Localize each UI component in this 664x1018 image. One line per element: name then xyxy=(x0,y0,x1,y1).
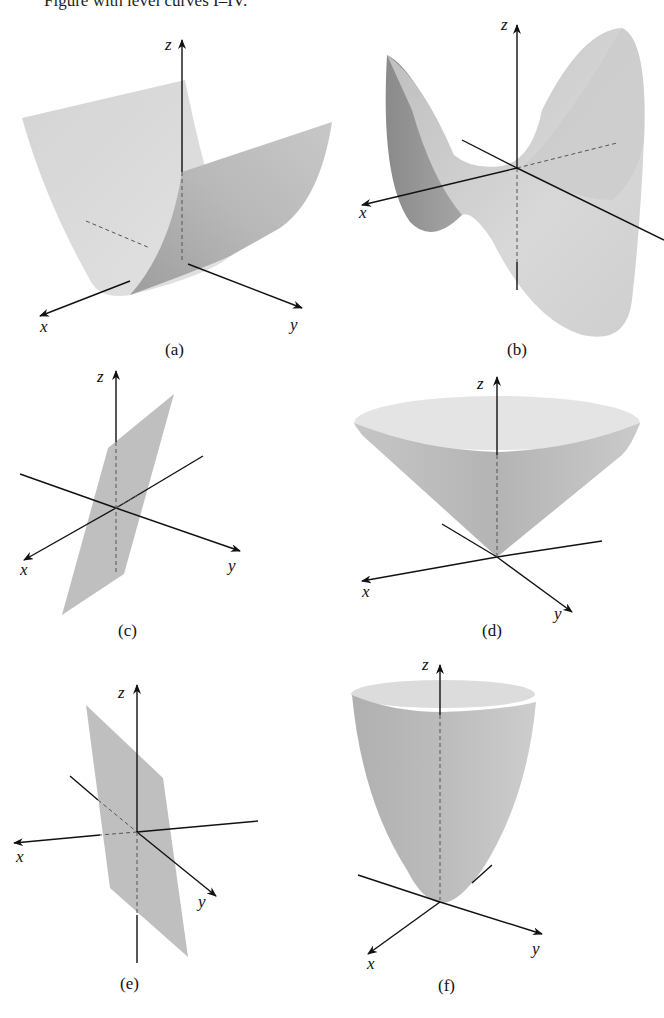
x-axis-label: x xyxy=(362,583,370,600)
plane-graphic xyxy=(0,650,332,1018)
z-axis-label: z xyxy=(165,36,172,53)
z-axis-label: z xyxy=(477,375,484,392)
y-axis-label: y xyxy=(290,316,298,333)
y-axis-label: y xyxy=(554,605,562,622)
y-axis-label: y xyxy=(228,557,236,574)
figure-caption: (f) xyxy=(438,977,455,994)
z-axis-label: z xyxy=(97,368,104,385)
x-axis-label: x xyxy=(20,561,28,578)
x-axis-label: x xyxy=(367,955,375,972)
z-axis-label: z xyxy=(118,684,125,701)
figure-f: z x y (f) xyxy=(332,650,664,1018)
y-axis-label: y xyxy=(198,893,206,910)
figure-caption: (b) xyxy=(507,341,527,358)
cone-graphic xyxy=(332,360,664,660)
figure-e: z x y (e) xyxy=(0,650,332,1018)
figure-caption: (c) xyxy=(118,622,137,639)
parabolic-cylinder-graphic xyxy=(0,0,332,370)
plane-graphic xyxy=(0,360,332,660)
z-axis-label: z xyxy=(501,16,508,33)
figure-caption: (e) xyxy=(120,975,139,992)
x-axis-label: x xyxy=(359,204,367,221)
saddle-surface-graphic xyxy=(332,0,664,370)
figure-c: z x y (c) xyxy=(0,360,332,660)
figure-a: z x y (a) xyxy=(0,0,332,370)
elliptic-paraboloid-graphic xyxy=(332,650,664,1018)
x-axis-label: x xyxy=(16,848,24,865)
figure-caption: (a) xyxy=(165,341,184,358)
z-axis-label: z xyxy=(422,656,429,673)
y-axis-label: y xyxy=(532,940,540,957)
figure-b: z x (b) xyxy=(332,0,664,370)
figure-d: z x y (d) xyxy=(332,360,664,660)
figure-caption: (d) xyxy=(482,622,502,639)
x-axis-label: x xyxy=(40,318,48,335)
